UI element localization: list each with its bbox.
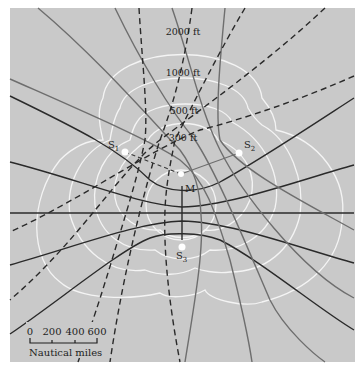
scale-tick-600: 600 xyxy=(87,326,106,337)
scale-tick-400: 400 xyxy=(65,326,84,337)
master-station-label: M xyxy=(185,183,195,194)
scale-tick-200: 200 xyxy=(42,326,61,337)
scale-tick-0: 0 xyxy=(27,326,33,337)
station-s2-marker xyxy=(236,150,243,157)
loran-hyperbolic-diagram: S1 S2 S3 M 2000 ft 1000 ft 500 ft 300 ft… xyxy=(0,0,364,374)
contour-label-300ft: 300 ft xyxy=(169,132,198,143)
master-station-marker xyxy=(178,171,184,177)
contour-label-1000ft: 1000 ft xyxy=(166,67,201,78)
contour-label-2000ft: 2000 ft xyxy=(166,26,201,37)
scale-bar: 0 200 400 600 Nautical miles xyxy=(26,322,107,358)
contour-label-500ft: 500 ft xyxy=(170,105,199,116)
station-s1-marker xyxy=(122,149,129,156)
scale-bar-label: Nautical miles xyxy=(29,347,102,358)
